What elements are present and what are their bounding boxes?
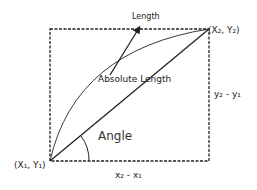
dx-label: x₂ - x₁ — [115, 170, 142, 180]
end-point-label: (X₂, Y₂) — [208, 25, 240, 35]
length-angle-diagram: Length Absolute Length Angle (X₂, Y₂) (X… — [0, 0, 257, 190]
absolute-length-label: Absolute Length — [98, 74, 171, 84]
angle-arc — [81, 136, 89, 161]
length-label: Length — [132, 12, 160, 21]
start-point-label: (X₁, Y₁) — [14, 160, 46, 170]
dy-label: y₂ - y₁ — [214, 89, 241, 99]
angle-label: Angle — [98, 129, 132, 143]
